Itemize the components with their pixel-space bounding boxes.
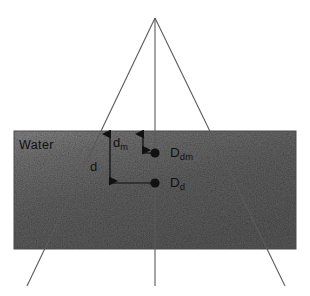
water-label: Water xyxy=(19,139,54,152)
marker-point-Ddm xyxy=(150,148,159,157)
d-label: d xyxy=(90,160,97,173)
figure-canvas: Water dm d Ddm Dd xyxy=(0,0,310,296)
Dd-label-main: D xyxy=(170,175,180,190)
Dd-label: Dd xyxy=(170,176,185,190)
marker-point-Dd xyxy=(150,178,159,187)
Ddm-label: Ddm xyxy=(170,146,193,160)
dm-label: dm xyxy=(113,136,128,149)
Ddm-label-subscript: dm xyxy=(180,151,194,162)
Ddm-label-main: D xyxy=(170,145,180,160)
dm-label-subscript: m xyxy=(120,142,128,152)
Dd-label-subscript: d xyxy=(180,181,185,192)
